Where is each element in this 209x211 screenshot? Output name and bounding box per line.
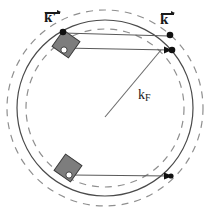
inner-dashed-circle: [26, 29, 184, 187]
fermi-solid-circle: [17, 20, 193, 196]
outer-dashed-circle: [7, 10, 203, 206]
k-endpoint-dot: [167, 32, 174, 39]
label-k-fermi-base: k: [138, 87, 145, 102]
figure-canvas: [0, 0, 209, 211]
segment-upper-incoming: [63, 48, 169, 50]
k-prime-endpoint-dot: [60, 29, 67, 36]
fermi-surface-figure: k' k kF: [0, 0, 209, 211]
scatterer-lower-left-hole: [66, 172, 72, 178]
label-k-fermi: kF: [138, 88, 151, 103]
label-k-fermi-subscript: F: [145, 92, 151, 103]
segment-bottom: [71, 175, 170, 176]
k-vector-arrow-icon: [161, 13, 174, 15]
fermi-radius-line: [105, 50, 161, 117]
k-prime-vector-arrow-icon: [45, 12, 60, 14]
bottom-endpoint-dot: [168, 173, 173, 178]
scatterer-upper-left-hole: [61, 47, 67, 53]
